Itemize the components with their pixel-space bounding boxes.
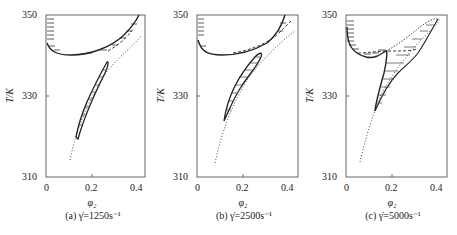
y-axis-label: T/K <box>155 88 166 103</box>
y-axis-label: T/K <box>4 88 15 103</box>
ytick-350: 350 <box>22 10 37 20</box>
xtick-0: 0 <box>344 183 349 193</box>
y-axis-label: T/K <box>304 88 315 103</box>
xtick-0: 0 <box>195 183 200 193</box>
panel-caption: (b) γ̇=2500s⁻¹ <box>189 210 299 221</box>
panel-a: 350 330 310 T/K 0 0.2 0.4 φ₂ (a) γ̇=1250… <box>0 0 150 235</box>
ytick-330: 330 <box>173 91 188 101</box>
x-axis-label: φ₂ <box>223 197 263 208</box>
x-axis-label: φ₂ <box>72 197 112 208</box>
panel-caption: (a) γ̇=1250s⁻¹ <box>38 210 148 221</box>
xtick-0.4: 0.4 <box>430 183 443 193</box>
xtick-0.2: 0.2 <box>236 183 249 193</box>
ytick-350: 350 <box>173 10 188 20</box>
ytick-330: 330 <box>22 91 37 101</box>
panel-b: 350 330 310 T/K 0 0.2 0.4 φ₂ (b) γ̇=2500… <box>151 0 301 235</box>
xtick-0.4: 0.4 <box>281 183 294 193</box>
panel-caption: (c) γ̇=5000s⁻¹ <box>338 210 448 221</box>
ytick-350: 350 <box>322 10 337 20</box>
xtick-0.2: 0.2 <box>85 183 98 193</box>
ytick-330: 330 <box>322 91 337 101</box>
xtick-0.4: 0.4 <box>130 183 143 193</box>
ytick-310: 310 <box>322 172 337 182</box>
ytick-310: 310 <box>173 172 188 182</box>
panel-c: 350 330 310 T/K 0 0.2 0.4 φ₂ (c) γ̇=5000… <box>300 0 450 235</box>
ytick-310: 310 <box>22 172 37 182</box>
xtick-0.2: 0.2 <box>385 183 398 193</box>
xtick-0: 0 <box>44 183 49 193</box>
x-axis-label: φ₂ <box>372 197 412 208</box>
